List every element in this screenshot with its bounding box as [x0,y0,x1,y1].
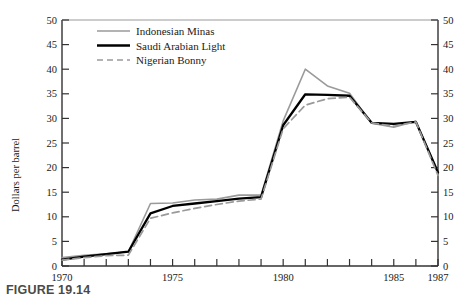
figure-caption: FIGURE 19.14 [6,283,90,297]
y-tick-label: 10 [47,211,58,222]
plot-frame [62,20,438,266]
y-tick-label-right: 50 [443,15,454,26]
y-tick-label: 45 [47,39,58,50]
y-tick-label: 5 [52,236,57,247]
y-tick-label: 25 [47,138,58,149]
y-tick-label: 50 [47,15,58,26]
y-axis-ticks-right [431,20,438,266]
x-axis-tick-labels: 19701975198019851987 [52,272,449,283]
y-axis-tick-labels-right: 05101520253035404550 [443,15,454,272]
chart-legend: Indonesian MinasSaudi Arabian LightNiger… [97,25,225,66]
y-tick-label: 15 [47,187,58,198]
legend-label: Saudi Arabian Light [136,40,225,52]
data-series-line [62,94,438,259]
y-tick-label-right: 40 [443,64,454,75]
y-tick-label-right: 25 [443,138,454,149]
y-tick-label: 30 [47,113,58,124]
figure-container: 05101520253035404550 0510152025303540455… [0,0,464,303]
data-series-line [62,69,438,257]
y-tick-label: 35 [47,88,58,99]
oil-price-line-chart: 05101520253035404550 0510152025303540455… [0,0,464,303]
y-tick-label: 0 [52,261,57,272]
y-axis-ticks-left [62,20,69,266]
x-tick-label: 1987 [428,272,449,283]
y-axis-tick-labels-left: 05101520253035404550 [47,15,58,272]
y-axis-title: Dollars per barrel [10,138,21,212]
y-tick-label-right: 0 [443,261,448,272]
data-series-line [62,97,438,260]
y-tick-label-right: 20 [443,162,454,173]
data-series-group [62,69,438,260]
x-tick-label: 1970 [52,272,73,283]
y-tick-label-right: 10 [443,211,454,222]
y-tick-label-right: 30 [443,113,454,124]
y-tick-label-right: 5 [443,236,448,247]
y-tick-label-right: 15 [443,187,454,198]
y-tick-label-right: 35 [443,88,454,99]
legend-label: Nigerian Bonny [136,54,207,66]
x-tick-label: 1975 [162,272,183,283]
y-tick-label: 40 [47,64,58,75]
x-axis-ticks [62,259,438,266]
y-tick-label: 20 [47,162,58,173]
x-tick-label: 1985 [383,272,404,283]
x-tick-label: 1980 [273,272,294,283]
legend-label: Indonesian Minas [136,25,215,37]
y-tick-label-right: 45 [443,39,454,50]
